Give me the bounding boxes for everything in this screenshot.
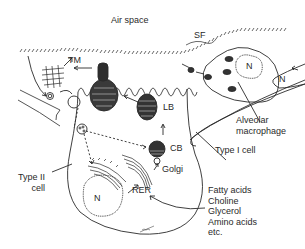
label-lb: LB: [163, 102, 174, 112]
label-alveolar-macrophage: Alveolar macrophage: [236, 115, 286, 136]
surfactant-film: [20, 28, 286, 54]
golgi-apparatus: [122, 155, 152, 189]
label-type1-cell: Type I cell: [215, 145, 256, 155]
label-golgi: Golgi: [162, 164, 183, 174]
label-macrophage-nucleus: N: [246, 61, 253, 71]
type2-nucleus: [83, 175, 123, 216]
tubular-myelin: [42, 65, 64, 88]
label-precursors: Fatty acids Choline Glycerol Amino acids…: [208, 185, 257, 238]
endocytic-vesicle: [68, 96, 80, 108]
rough-er: [88, 158, 126, 190]
small-vesicle: [47, 93, 54, 100]
label-air-space: Air space: [111, 15, 149, 25]
multivesicular-body: [77, 124, 87, 134]
type2-cell-outline: [68, 89, 203, 234]
label-type2-cell: Type II cell: [18, 172, 45, 193]
secreting-lamellar-body: [90, 63, 118, 111]
composite-body: [149, 141, 165, 164]
label-rer: RER: [132, 185, 151, 195]
type1-nucleus-outline: [273, 64, 305, 88]
artist-signature: [140, 226, 154, 232]
label-type2-nucleus: N: [94, 193, 101, 203]
epithelium-left: [20, 90, 60, 120]
label-cb: CB: [170, 143, 183, 153]
type2-leader: [52, 164, 72, 172]
label-type1-nucleus: N: [279, 74, 286, 84]
uptake-arrow: [28, 56, 46, 96]
lb-to-secretion-arrow: [124, 96, 138, 102]
label-tm: TM: [68, 55, 81, 65]
label-sf: SF: [194, 30, 206, 40]
precursor-arrow: [150, 196, 205, 209]
epithelium-left-lower: [18, 100, 60, 126]
